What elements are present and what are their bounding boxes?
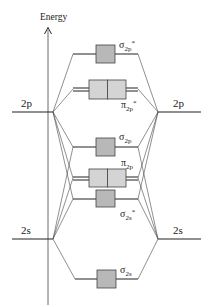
mo-sigma-2s: σ2s <box>75 264 138 288</box>
orbital-box <box>89 80 108 99</box>
orbital-box <box>108 169 127 187</box>
orbital-box <box>96 45 115 63</box>
mo-pi-2p: π2p <box>73 157 138 187</box>
mo-sigma-2p-star: σ2p* <box>73 39 138 63</box>
orbital-box <box>97 270 116 288</box>
sigma-2s-label: σ2s <box>120 264 132 278</box>
energy-label: Energy <box>40 12 68 22</box>
sigma-2p-star-label: σ2p* <box>119 39 135 53</box>
sigma-2p-label: σ2p <box>119 131 132 145</box>
left-2p-label: 2p <box>21 97 33 109</box>
mo-sigma-2p: σ2p <box>73 131 138 156</box>
left-2s-label: 2s <box>21 224 31 236</box>
right-2p-label: 2p <box>173 97 185 109</box>
right-2s-label: 2s <box>173 224 183 236</box>
orbital-box <box>96 190 115 207</box>
mo-sigma-2s-star: σ2s* <box>73 190 138 222</box>
orbital-box <box>96 138 115 156</box>
mo-pi-2p-star: π2p* <box>73 80 138 113</box>
sigma-2s-star-label: σ2s* <box>120 208 136 222</box>
pi-2p-star-label: π2p* <box>121 99 137 113</box>
mo-diagram: Energy 2p 2p 2s 2s <box>0 0 213 307</box>
orbital-box <box>89 169 108 187</box>
orbital-box <box>108 80 127 99</box>
